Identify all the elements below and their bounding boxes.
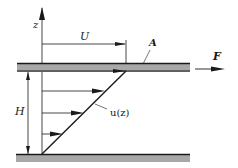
couette-flow-diagram: z U A F H: [0, 0, 238, 168]
lower-plate: [16, 154, 190, 162]
velocity-u-label: U: [80, 30, 90, 43]
height-h-label: H: [14, 105, 25, 118]
height-bottom-arrow-icon: [26, 146, 30, 154]
velocity-profile: u(z): [42, 69, 130, 154]
area-a-label: A: [148, 37, 157, 48]
force-arrow-icon: [211, 67, 225, 72]
profile-leader-line: [95, 104, 107, 109]
area-label-group: A: [143, 37, 157, 64]
force-arrow: F: [195, 50, 225, 72]
z-axis: z: [32, 7, 45, 154]
z-axis-label: z: [32, 19, 39, 30]
z-axis-arrow-icon: [39, 7, 45, 20]
velocity-profile-label: u(z): [110, 107, 130, 118]
velocity-u-arrow-icon: [115, 42, 126, 46]
height-top-arrow-icon: [26, 72, 30, 80]
gap-height-dimension: H: [14, 72, 30, 154]
force-f-label: F: [212, 50, 222, 63]
area-leader-line: [143, 50, 150, 64]
upper-plate: [17, 63, 190, 72]
